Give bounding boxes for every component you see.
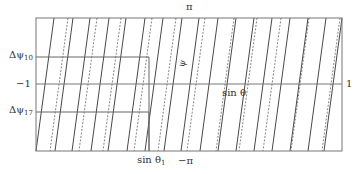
label-sin-theta: sin θ	[222, 88, 246, 98]
sin-theta-1-sub: 1	[161, 159, 165, 167]
delta-psi-17-sub: 17	[24, 109, 33, 117]
label-minus-pi-bottom: −π	[178, 156, 193, 166]
phase-diagram	[0, 0, 356, 174]
label-one: 1	[346, 79, 352, 89]
label-minus-one: −1	[16, 79, 31, 89]
delta-psi-17-text: Δψ	[9, 104, 24, 115]
delta-psi-10-text: Δψ	[9, 49, 24, 60]
delta-psi-10-sub: 10	[24, 54, 33, 62]
sin-theta-1-text: sin θ	[137, 154, 161, 165]
label-sin-theta-1: sin θ1	[137, 155, 165, 167]
label-pi-top: π	[186, 2, 193, 12]
box-delta-psi-17	[36, 112, 149, 151]
label-delta-psi-17: Δψ17	[9, 105, 33, 117]
label-delta-psi-10: Δψ10	[9, 50, 33, 62]
